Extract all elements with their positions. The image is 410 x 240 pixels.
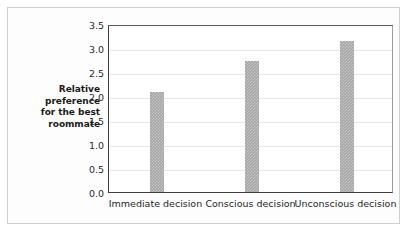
bar bbox=[245, 61, 259, 192]
x-tick-label: Unconscious decision bbox=[295, 198, 397, 209]
y-axis-label-line-1: Relative bbox=[14, 84, 100, 96]
plot-area bbox=[108, 25, 393, 193]
y-axis-label-line-2: preference bbox=[14, 96, 100, 108]
y-axis-label-line-3: for the best bbox=[14, 107, 100, 119]
x-tick-label: Conscious decision bbox=[205, 198, 295, 209]
y-axis-label: Relative preference for the best roommat… bbox=[14, 84, 100, 130]
bar bbox=[340, 41, 354, 192]
y-axis-label-line-4: roommate bbox=[14, 119, 100, 131]
bar bbox=[150, 92, 164, 192]
chart-figure: Relative preference for the best roommat… bbox=[0, 0, 410, 240]
x-tick-label: Immediate decision bbox=[109, 198, 202, 209]
